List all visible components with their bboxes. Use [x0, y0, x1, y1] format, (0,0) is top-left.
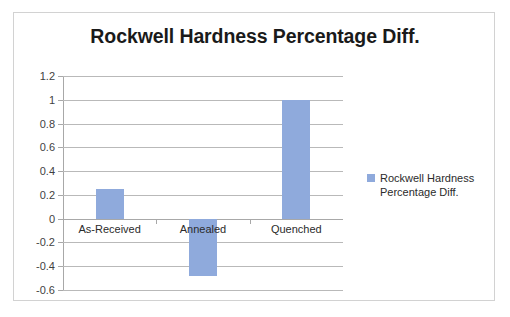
y-axis-tick	[58, 124, 63, 125]
legend-label-line2: Percentage Diff.	[380, 185, 480, 199]
legend-swatch-icon	[367, 174, 375, 182]
chart-title: Rockwell Hardness Percentage Diff.	[14, 25, 496, 48]
y-axis-label: 0.6	[40, 141, 55, 153]
y-axis-label: 1.2	[40, 70, 55, 82]
bar	[96, 189, 124, 219]
y-axis-label: -0.2	[36, 236, 55, 248]
y-axis-tick	[58, 242, 63, 243]
y-axis-tick	[58, 266, 63, 267]
chart-legend: Rockwell Hardness Percentage Diff.	[367, 171, 480, 199]
y-axis-tick	[58, 195, 63, 196]
y-axis-tick	[58, 290, 63, 291]
x-axis-tick	[250, 219, 251, 224]
y-axis-tick	[58, 147, 63, 148]
y-axis-label: -0.6	[36, 284, 55, 296]
y-axis-tick	[58, 171, 63, 172]
gridline	[63, 290, 343, 291]
y-axis-label: 0	[49, 213, 55, 225]
y-axis-line	[63, 76, 64, 290]
plot-area: 1.210.80.60.40.20-0.2-0.4-0.6As-Received…	[63, 76, 343, 290]
x-axis-tick	[156, 219, 157, 224]
y-axis-tick	[58, 76, 63, 77]
legend-label-line1: Rockwell Hardness	[380, 171, 480, 185]
bar	[282, 100, 310, 219]
gridline	[63, 76, 343, 77]
y-axis-label: 1	[49, 94, 55, 106]
y-axis-tick	[58, 100, 63, 101]
x-axis-category-label: As-Received	[78, 223, 140, 235]
y-axis-label: 0.4	[40, 165, 55, 177]
y-axis-label: 0.8	[40, 118, 55, 130]
y-axis-tick	[58, 219, 63, 220]
y-axis-label: -0.4	[36, 260, 55, 272]
x-axis-category-label: Quenched	[271, 223, 322, 235]
legend-label: Rockwell Hardness Percentage Diff.	[380, 171, 480, 199]
y-axis-label: 0.2	[40, 189, 55, 201]
chart-container: Rockwell Hardness Percentage Diff. 1.210…	[13, 12, 495, 301]
x-axis-category-label: Annealed	[180, 223, 227, 235]
